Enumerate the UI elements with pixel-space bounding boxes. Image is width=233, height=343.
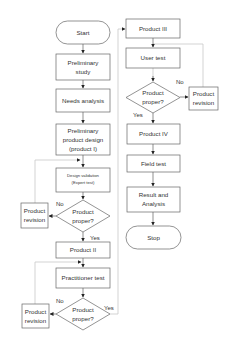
node-preliminary-study: Preliminary study [56, 54, 110, 80]
node-label: Product IV [139, 130, 169, 137]
flowchart: Start Preliminary study Needs analysis P… [0, 0, 233, 343]
node-label: Field test [141, 160, 166, 167]
node-label: Analysis [142, 200, 165, 207]
node-product2: Product II [56, 242, 110, 258]
node-label: Product III [139, 25, 167, 32]
node-label: Preliminary [68, 59, 100, 66]
edge-label-yes: Yes [90, 235, 100, 241]
node-revision2: Product revision [22, 304, 49, 328]
node-result-analysis: Result and Analysis [127, 187, 180, 212]
node-design-validation: Design validation (Expert test) [56, 168, 110, 192]
node-label: Product [142, 89, 164, 96]
edge-label-no: No [56, 298, 64, 304]
node-label: Design validation [67, 173, 100, 178]
node-label: proper? [72, 315, 94, 322]
node-stop-label: Stop [147, 234, 160, 241]
node-label: study [76, 68, 92, 75]
node-practitioner-test: Practitioner test [56, 268, 110, 288]
node-label: Product [193, 90, 215, 97]
node-label: Product [25, 308, 47, 315]
node-label: Needs analysis [62, 97, 104, 104]
node-decision2: Product proper? [56, 298, 110, 330]
node-label: revision [24, 216, 46, 223]
node-start-label: Start [76, 29, 89, 36]
node-label: (product I) [69, 145, 97, 152]
node-field-test: Field test [127, 155, 180, 172]
node-revision3: Product revision [189, 87, 218, 110]
node-label: Product [72, 208, 94, 215]
edge-label-yes: Yes [133, 112, 143, 118]
node-label: product design [63, 136, 104, 143]
node-decision1: Product proper? [56, 200, 110, 232]
node-stop: Stop [126, 226, 181, 249]
node-label: Preliminary [68, 127, 100, 134]
node-label: proper? [142, 98, 164, 105]
node-label: (Expert test) [72, 180, 95, 185]
node-preliminary-design: Preliminary product design (product I) [56, 124, 110, 155]
node-decision3: Product proper? [126, 82, 180, 113]
loop-decision2-yes [110, 29, 125, 314]
node-label: revision [25, 317, 47, 324]
node-label: Practitioner test [62, 274, 105, 281]
node-label: Result and [139, 191, 169, 198]
edge-label-no: No [56, 201, 64, 207]
node-product4: Product IV [127, 124, 180, 144]
node-label: proper? [72, 217, 94, 224]
node-revision1: Product revision [21, 203, 48, 228]
node-needs-analysis: Needs analysis [56, 89, 110, 112]
node-label: Product [72, 306, 94, 313]
edge-label-yes: Yes [104, 305, 114, 311]
node-product3: Product III [126, 19, 180, 38]
node-start: Start [56, 21, 110, 44]
node-label: Product II [70, 246, 97, 253]
node-label: revision [193, 99, 215, 106]
node-label: User test [141, 54, 166, 61]
node-user-test: User test [126, 48, 180, 68]
node-label: Product [24, 207, 46, 214]
edge-label-no: No [176, 79, 184, 85]
